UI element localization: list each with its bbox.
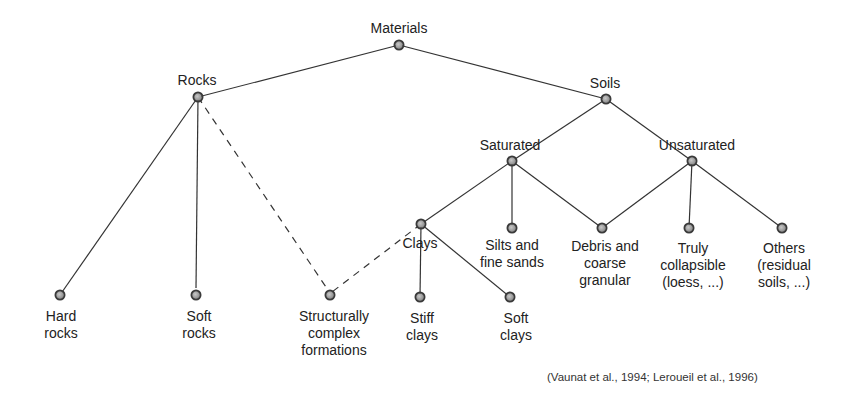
node-stiff-clays	[415, 292, 426, 303]
node-soft-rocks	[191, 290, 202, 301]
label-others: Others (residual soils, ...)	[757, 240, 811, 291]
label-soft-rocks: Soft rocks	[182, 308, 215, 342]
citation: (Vaunat et al., 1994; Leroueil et al., 1…	[547, 371, 758, 383]
edge-unsaturated-truly	[689, 161, 692, 228]
edge-rocks-soft	[196, 97, 198, 288]
node-rocks	[193, 92, 204, 103]
label-soft-clays: Soft clays	[500, 310, 532, 344]
edge-saturated-clays	[421, 161, 512, 224]
node-soils	[601, 94, 612, 105]
label-rocks: Rocks	[178, 72, 217, 89]
label-structurally-complex: Structurally complex formations	[299, 308, 369, 359]
node-others	[777, 223, 788, 234]
label-unsaturated: Unsaturated	[659, 137, 735, 154]
label-saturated: Saturated	[480, 137, 541, 154]
node-soft-clays	[505, 292, 516, 303]
label-materials: Materials	[371, 20, 428, 37]
edge-materials-soils	[399, 45, 606, 99]
label-silts: Silts and fine sands	[480, 237, 544, 271]
edge-saturated-debris	[512, 161, 602, 228]
node-hard-rocks	[55, 290, 66, 301]
node-structurally-complex	[325, 290, 336, 301]
edge-rocks-hard	[60, 97, 198, 295]
node-truly-collapsible	[684, 223, 695, 234]
label-hard-rocks: Hard rocks	[44, 308, 77, 342]
node-saturated	[507, 156, 518, 167]
edge-materials-rocks	[198, 45, 399, 97]
label-clays: Clays	[402, 235, 437, 252]
edge-unsaturated-debris	[602, 161, 692, 228]
node-clays	[416, 219, 427, 230]
node-unsaturated	[687, 156, 698, 167]
node-materials	[394, 40, 405, 51]
edge-unsaturated-others	[692, 161, 782, 228]
label-soils: Soils	[590, 75, 620, 92]
label-stiff-clays: Stiff clays	[406, 310, 438, 344]
node-silts	[507, 223, 518, 234]
label-debris: Debris and coarse granular	[571, 238, 639, 289]
node-debris	[597, 223, 608, 234]
label-truly-collapsible: Truly collapsible (loess, ...)	[660, 240, 725, 291]
edge-rocks-structural	[198, 97, 328, 290]
